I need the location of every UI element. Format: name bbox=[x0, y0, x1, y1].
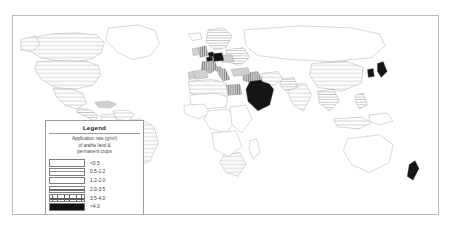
world-map-figure: Legend Application rate (g/m²) of arable… bbox=[0, 0, 451, 240]
region-papua bbox=[369, 113, 393, 125]
legend-label: 3.5-4.0 bbox=[90, 196, 105, 201]
legend-swatch-icon bbox=[49, 177, 85, 185]
legend-subtitle-line-1: Application rate (g/m²) bbox=[51, 136, 138, 143]
region-canada bbox=[29, 33, 105, 62]
map-frame: Legend Application rate (g/m²) of arable… bbox=[12, 15, 439, 215]
region-southern-africa bbox=[220, 153, 246, 177]
region-mexico bbox=[53, 88, 87, 109]
region-saudi-arabia bbox=[246, 79, 274, 111]
region-egypt bbox=[226, 84, 242, 95]
region-united-kingdom bbox=[198, 46, 208, 58]
map-legend: Legend Application rate (g/m²) of arable… bbox=[45, 120, 144, 215]
legend-swatch-icon bbox=[49, 186, 85, 194]
legend-row: 0.5-1.2 bbox=[49, 168, 140, 176]
legend-row: 3.5-4.0 bbox=[49, 194, 140, 202]
legend-label: <0.5 bbox=[90, 161, 100, 166]
region-africa-south-central bbox=[212, 131, 242, 157]
region-greenland bbox=[106, 25, 160, 60]
region-japan bbox=[377, 62, 387, 78]
region-southeast-asia bbox=[318, 89, 340, 111]
legend-row: >4.0 bbox=[49, 203, 140, 211]
legend-swatch-icon bbox=[49, 159, 85, 167]
legend-subtitle-line-3: permanent crops bbox=[51, 149, 138, 156]
region-russia bbox=[244, 26, 385, 62]
legend-label: 0.5-1.2 bbox=[90, 169, 105, 174]
region-indonesia bbox=[333, 117, 371, 129]
region-korea bbox=[367, 68, 374, 77]
legend-row: <0.5 bbox=[49, 159, 140, 167]
region-italy bbox=[218, 68, 230, 81]
legend-row: 2.0-3.5 bbox=[49, 185, 140, 193]
region-united-states bbox=[35, 61, 101, 90]
region-central-america bbox=[77, 108, 99, 121]
region-scandinavia bbox=[206, 28, 232, 50]
legend-subtitle: Application rate (g/m²) of arable land &… bbox=[49, 136, 140, 156]
legend-label: 2.0-3.5 bbox=[90, 187, 105, 192]
region-belgium bbox=[206, 57, 213, 62]
legend-row: 1.2-2.0 bbox=[49, 177, 140, 185]
legend-label: >4.0 bbox=[90, 204, 100, 209]
region-china bbox=[310, 62, 364, 92]
legend-swatch-icon bbox=[49, 203, 85, 211]
legend-swatch-icon bbox=[49, 168, 85, 176]
region-philippines bbox=[355, 93, 367, 109]
legend-label: 1.2-2.0 bbox=[90, 178, 105, 183]
region-iceland bbox=[188, 33, 202, 41]
legend-title: Legend bbox=[49, 124, 140, 134]
region-germany bbox=[212, 53, 224, 62]
region-caribbean bbox=[95, 101, 117, 108]
region-australia bbox=[343, 135, 393, 173]
region-new-zealand bbox=[407, 161, 419, 181]
region-madagascar bbox=[249, 139, 260, 159]
legend-swatch-icon bbox=[49, 194, 85, 202]
legend-subtitle-line-2: of arable land & bbox=[51, 143, 138, 150]
region-east-africa bbox=[230, 105, 252, 133]
region-ireland bbox=[192, 48, 199, 56]
